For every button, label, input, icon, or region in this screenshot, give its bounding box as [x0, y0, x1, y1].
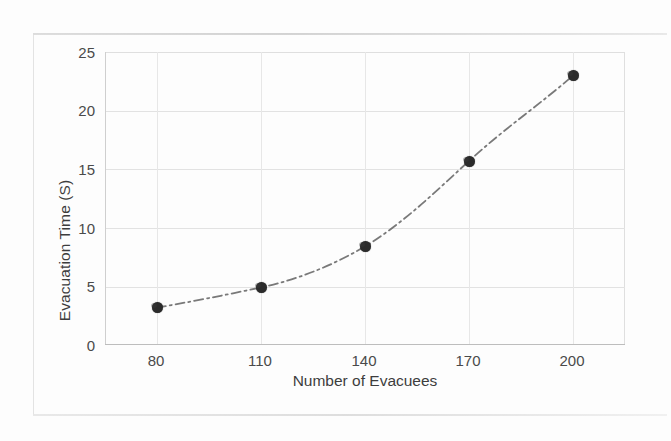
x-tick-label-170: 170 [438, 352, 498, 369]
x-axis-title: Number of Evacuees [105, 372, 625, 390]
data-point-smudge [463, 157, 469, 162]
x-tick-label-140: 140 [334, 352, 394, 369]
data-point-170 [464, 156, 475, 167]
series-line-evacuation-time [105, 52, 625, 345]
data-point-200 [568, 70, 579, 81]
data-point-smudge [255, 283, 261, 288]
data-point-smudge [359, 242, 365, 247]
plot-area [105, 52, 625, 345]
x-tick-label-200: 200 [542, 352, 602, 369]
data-point-smudge [151, 303, 157, 308]
x-tick-label-80: 80 [126, 352, 186, 369]
x-tick-label-110: 110 [230, 352, 290, 369]
data-point-140 [360, 241, 371, 252]
data-series-layer [105, 52, 625, 345]
data-point-80 [152, 302, 163, 313]
chart-figure: 25 20 15 10 5 0 80 110 140 170 200 Evacu… [0, 0, 671, 441]
y-axis-title: Evacuation Time (S) [54, 104, 76, 397]
data-point-110 [256, 282, 267, 293]
data-point-smudge [567, 71, 573, 76]
